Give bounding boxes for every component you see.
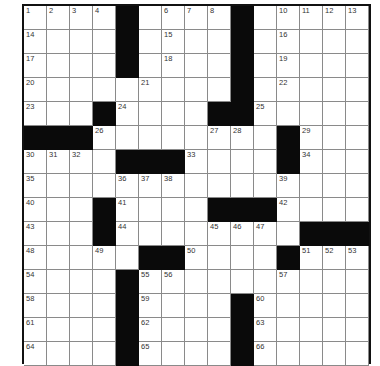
- grid-cell[interactable]: [323, 102, 346, 126]
- grid-cell[interactable]: [139, 30, 162, 54]
- grid-cell[interactable]: [300, 102, 323, 126]
- grid-cell[interactable]: [185, 102, 208, 126]
- grid-cell[interactable]: [346, 342, 369, 366]
- grid-cell[interactable]: 66: [254, 342, 277, 366]
- grid-cell[interactable]: [93, 78, 116, 102]
- grid-cell[interactable]: [116, 126, 139, 150]
- grid-cell[interactable]: 40: [24, 198, 47, 222]
- grid-cell[interactable]: [139, 54, 162, 78]
- grid-cell[interactable]: [93, 318, 116, 342]
- grid-cell[interactable]: [208, 150, 231, 174]
- grid-cell[interactable]: [47, 198, 70, 222]
- grid-cell[interactable]: [139, 198, 162, 222]
- grid-cell[interactable]: [185, 174, 208, 198]
- grid-cell[interactable]: [346, 270, 369, 294]
- grid-cell[interactable]: 16: [277, 30, 300, 54]
- grid-cell[interactable]: [93, 294, 116, 318]
- grid-cell[interactable]: 7: [185, 6, 208, 30]
- grid-cell[interactable]: [323, 150, 346, 174]
- grid-cell[interactable]: [300, 318, 323, 342]
- grid-cell[interactable]: [231, 174, 254, 198]
- grid-cell[interactable]: 52: [323, 246, 346, 270]
- grid-cell[interactable]: 37: [139, 174, 162, 198]
- grid-cell[interactable]: 4: [93, 6, 116, 30]
- grid-cell[interactable]: [93, 30, 116, 54]
- grid-cell[interactable]: 61: [24, 318, 47, 342]
- grid-cell[interactable]: [47, 222, 70, 246]
- grid-cell[interactable]: [162, 198, 185, 222]
- grid-cell[interactable]: [162, 222, 185, 246]
- grid-cell[interactable]: 39: [277, 174, 300, 198]
- grid-cell[interactable]: 20: [24, 78, 47, 102]
- grid-cell[interactable]: [300, 294, 323, 318]
- grid-cell[interactable]: [254, 174, 277, 198]
- grid-cell[interactable]: [254, 78, 277, 102]
- grid-cell[interactable]: [47, 54, 70, 78]
- grid-cell[interactable]: 48: [24, 246, 47, 270]
- grid-cell[interactable]: [47, 174, 70, 198]
- grid-cell[interactable]: [231, 246, 254, 270]
- grid-cell[interactable]: 29: [300, 126, 323, 150]
- grid-cell[interactable]: [208, 246, 231, 270]
- grid-cell[interactable]: [300, 342, 323, 366]
- grid-cell[interactable]: [70, 30, 93, 54]
- grid-cell[interactable]: [300, 30, 323, 54]
- grid-cell[interactable]: [185, 30, 208, 54]
- grid-cell[interactable]: [116, 246, 139, 270]
- grid-cell[interactable]: [162, 126, 185, 150]
- grid-cell[interactable]: [208, 174, 231, 198]
- grid-cell[interactable]: [93, 54, 116, 78]
- grid-cell[interactable]: [70, 78, 93, 102]
- grid-cell[interactable]: [254, 6, 277, 30]
- grid-cell[interactable]: [300, 78, 323, 102]
- grid-cell[interactable]: 26: [93, 126, 116, 150]
- grid-cell[interactable]: [47, 246, 70, 270]
- grid-cell[interactable]: 32: [70, 150, 93, 174]
- grid-cell[interactable]: [277, 342, 300, 366]
- grid-cell[interactable]: [47, 102, 70, 126]
- grid-cell[interactable]: [254, 270, 277, 294]
- grid-cell[interactable]: 58: [24, 294, 47, 318]
- grid-cell[interactable]: [162, 78, 185, 102]
- grid-cell[interactable]: 57: [277, 270, 300, 294]
- grid-cell[interactable]: [47, 78, 70, 102]
- grid-cell[interactable]: [208, 78, 231, 102]
- grid-cell[interactable]: 46: [231, 222, 254, 246]
- grid-cell[interactable]: 14: [24, 30, 47, 54]
- grid-cell[interactable]: [300, 198, 323, 222]
- grid-cell[interactable]: 54: [24, 270, 47, 294]
- grid-cell[interactable]: 8: [208, 6, 231, 30]
- grid-cell[interactable]: [162, 318, 185, 342]
- grid-cell[interactable]: [346, 126, 369, 150]
- grid-cell[interactable]: [300, 270, 323, 294]
- grid-cell[interactable]: [162, 102, 185, 126]
- grid-cell[interactable]: [254, 30, 277, 54]
- grid-cell[interactable]: 23: [24, 102, 47, 126]
- grid-cell[interactable]: [323, 174, 346, 198]
- grid-cell[interactable]: [116, 78, 139, 102]
- grid-cell[interactable]: 44: [116, 222, 139, 246]
- grid-cell[interactable]: [277, 102, 300, 126]
- grid-cell[interactable]: 45: [208, 222, 231, 246]
- grid-cell[interactable]: 30: [24, 150, 47, 174]
- grid-cell[interactable]: [346, 78, 369, 102]
- grid-cell[interactable]: 10: [277, 6, 300, 30]
- grid-cell[interactable]: 12: [323, 6, 346, 30]
- grid-cell[interactable]: [185, 126, 208, 150]
- grid-cell[interactable]: 25: [254, 102, 277, 126]
- grid-cell[interactable]: [185, 270, 208, 294]
- grid-cell[interactable]: [346, 318, 369, 342]
- grid-cell[interactable]: [346, 102, 369, 126]
- grid-cell[interactable]: [346, 150, 369, 174]
- grid-cell[interactable]: [346, 174, 369, 198]
- grid-cell[interactable]: [323, 318, 346, 342]
- grid-cell[interactable]: [185, 294, 208, 318]
- grid-cell[interactable]: [231, 150, 254, 174]
- grid-cell[interactable]: [231, 270, 254, 294]
- grid-cell[interactable]: [139, 6, 162, 30]
- grid-cell[interactable]: 2: [47, 6, 70, 30]
- grid-cell[interactable]: 1: [24, 6, 47, 30]
- grid-cell[interactable]: [70, 294, 93, 318]
- grid-cell[interactable]: [93, 174, 116, 198]
- grid-cell[interactable]: [70, 174, 93, 198]
